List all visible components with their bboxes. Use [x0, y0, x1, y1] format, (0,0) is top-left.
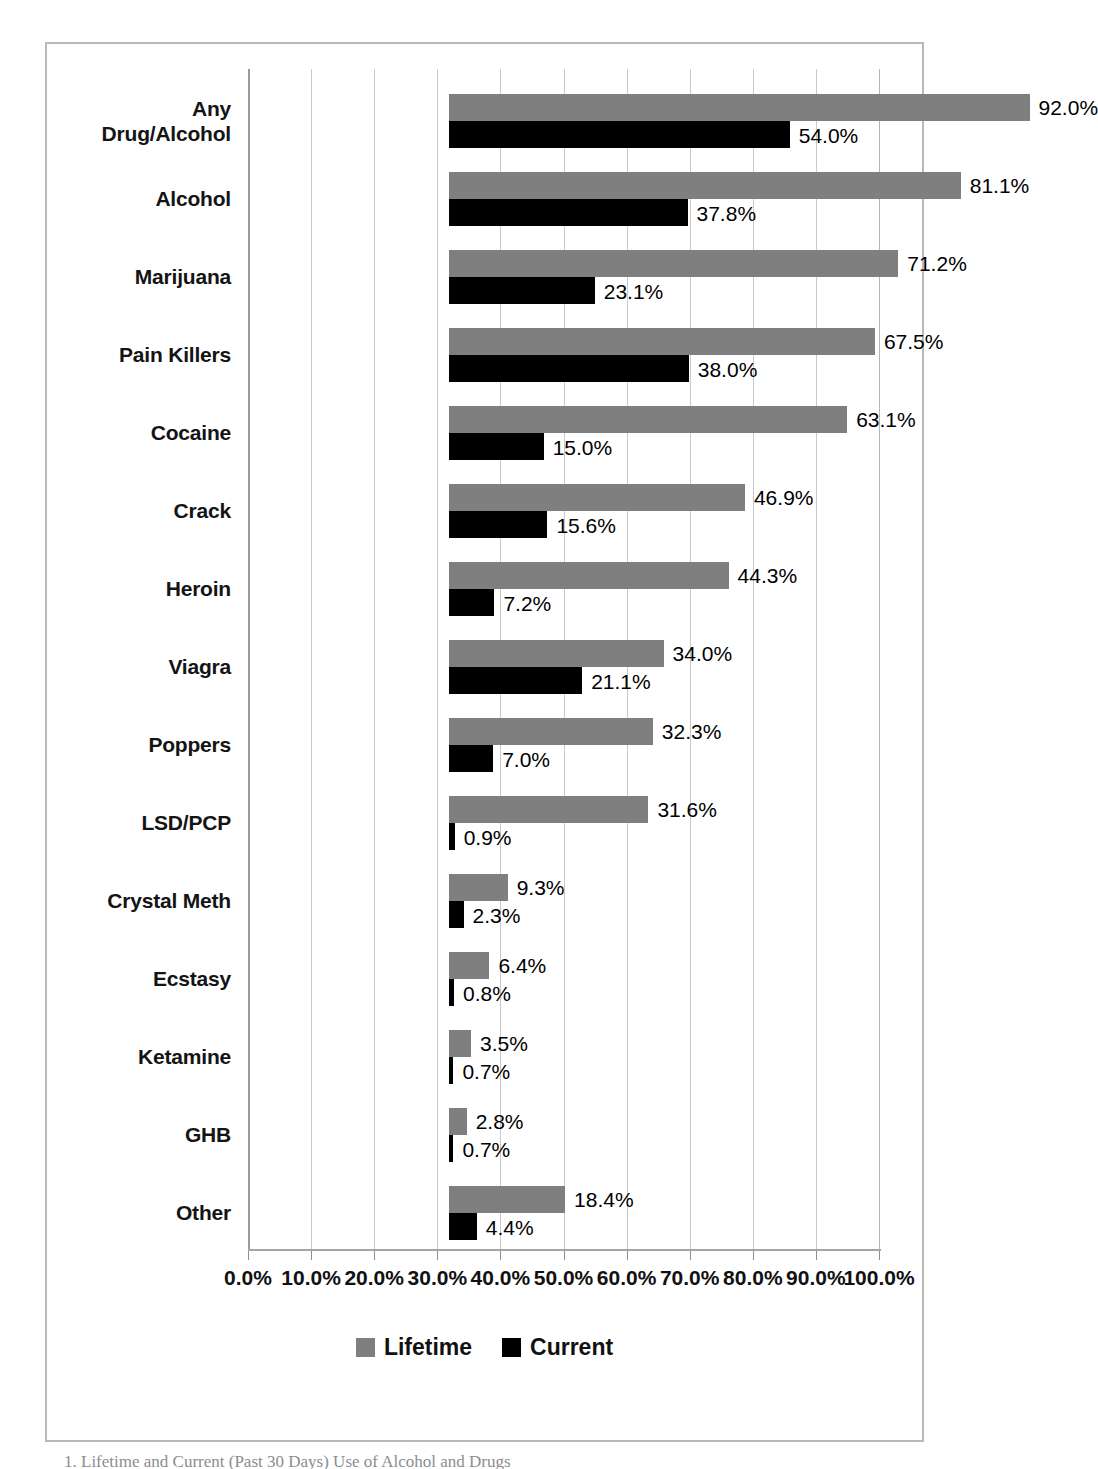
x-tick-mark — [753, 1251, 754, 1260]
legend-item-current: Current — [502, 1334, 613, 1361]
bar-lifetime — [449, 874, 508, 901]
bar-value-current: 7.2% — [503, 590, 551, 617]
bar-current — [449, 979, 454, 1006]
category-label-poppers: Poppers — [0, 733, 231, 757]
chart-frame: AnyDrug/Alcohol92.0%54.0%Alcohol81.1%37.… — [45, 42, 924, 1442]
x-tick-label: 50.0% — [534, 1266, 594, 1290]
bar-current — [449, 355, 689, 382]
bar-row: Pain Killers67.5%38.0% — [248, 328, 879, 406]
x-tick-mark — [374, 1251, 375, 1260]
bar-row: Viagra34.0%21.1% — [248, 640, 879, 718]
bar-value-lifetime: 63.1% — [856, 406, 916, 433]
category-label-crack: Crack — [0, 499, 231, 523]
legend-label: Lifetime — [384, 1334, 472, 1361]
bar-row: Poppers32.3%7.0% — [248, 718, 879, 796]
category-label-lsd-pcp: LSD/PCP — [0, 811, 231, 835]
x-tick-label: 60.0% — [597, 1266, 657, 1290]
x-axis-tick-labels: 0.0%10.0%20.0%30.0%40.0%50.0%60.0%70.0%8… — [248, 1266, 879, 1296]
plot-area: AnyDrug/Alcohol92.0%54.0%Alcohol81.1%37.… — [248, 69, 879, 1249]
bar-value-current: 23.1% — [604, 278, 664, 305]
bar-value-lifetime: 2.8% — [476, 1108, 524, 1135]
bar-value-lifetime: 34.0% — [673, 640, 733, 667]
bar-current — [449, 1135, 453, 1162]
category-label-ecstasy: Ecstasy — [0, 967, 231, 991]
x-tick-mark — [311, 1251, 312, 1260]
bar-row: Alcohol81.1%37.8% — [248, 172, 879, 250]
bar-current — [449, 901, 464, 928]
bar-value-lifetime: 3.5% — [480, 1030, 528, 1057]
bar-value-current: 0.7% — [462, 1058, 510, 1085]
bar-lifetime — [449, 1030, 471, 1057]
category-label-heroin: Heroin — [0, 577, 231, 601]
category-label-other: Other — [0, 1201, 231, 1225]
bar-row: Ecstasy6.4%0.8% — [248, 952, 879, 1030]
bar-row: Marijuana71.2%23.1% — [248, 250, 879, 328]
bar-value-lifetime: 67.5% — [884, 328, 944, 355]
x-axis-line — [248, 1249, 881, 1251]
bar-row: Ketamine3.5%0.7% — [248, 1030, 879, 1108]
bar-current — [449, 121, 790, 148]
bar-value-lifetime: 32.3% — [662, 718, 722, 745]
bar-lifetime — [449, 94, 1030, 121]
bar-value-current: 0.9% — [464, 824, 512, 851]
bar-lifetime — [449, 484, 745, 511]
bar-lifetime — [449, 328, 875, 355]
bar-current — [449, 199, 688, 226]
category-label-viagra: Viagra — [0, 655, 231, 679]
legend-swatch-icon — [502, 1338, 521, 1357]
bar-value-lifetime: 9.3% — [517, 874, 565, 901]
bar-lifetime — [449, 172, 961, 199]
bar-current — [449, 823, 455, 850]
bar-lifetime — [449, 1186, 565, 1213]
figure-caption: 1. Lifetime and Current (Past 30 Days) U… — [64, 1452, 511, 1469]
bar-row: Crack46.9%15.6% — [248, 484, 879, 562]
bar-value-current: 21.1% — [591, 668, 651, 695]
x-tick-mark — [816, 1251, 817, 1260]
bar-current — [449, 277, 595, 304]
x-tick-mark — [248, 1251, 249, 1260]
x-tick-label: 40.0% — [471, 1266, 531, 1290]
bar-value-lifetime: 18.4% — [574, 1186, 634, 1213]
bar-value-current: 15.6% — [556, 512, 616, 539]
bar-value-current: 0.7% — [462, 1136, 510, 1163]
bar-lifetime — [449, 250, 898, 277]
bar-value-lifetime: 46.9% — [754, 484, 814, 511]
bar-value-current: 2.3% — [473, 902, 521, 929]
bar-current — [449, 1057, 453, 1084]
bar-current — [449, 745, 493, 772]
x-tick-label: 70.0% — [660, 1266, 720, 1290]
bar-current — [449, 511, 547, 538]
bar-value-lifetime: 31.6% — [657, 796, 717, 823]
x-tick-label: 10.0% — [281, 1266, 341, 1290]
bar-row: GHB2.8%0.7% — [248, 1108, 879, 1186]
bar-lifetime — [449, 406, 847, 433]
bar-value-lifetime: 6.4% — [498, 952, 546, 979]
gridline-1000 — [879, 69, 880, 1249]
bar-current — [449, 589, 494, 616]
bar-value-current: 54.0% — [799, 122, 859, 149]
bar-value-lifetime: 71.2% — [907, 250, 967, 277]
x-tick-mark — [690, 1251, 691, 1260]
category-label-alcohol: Alcohol — [0, 187, 231, 211]
bar-value-lifetime: 81.1% — [970, 172, 1030, 199]
x-tick-mark — [564, 1251, 565, 1260]
x-tick-label: 0.0% — [224, 1266, 272, 1290]
bar-row: Crystal Meth9.3%2.3% — [248, 874, 879, 952]
x-tick-label: 80.0% — [723, 1266, 783, 1290]
bar-lifetime — [449, 796, 648, 823]
bar-value-lifetime: 92.0% — [1039, 94, 1098, 121]
chart-legend: LifetimeCurrent — [47, 1334, 922, 1361]
category-label-any-drug-alcohol: AnyDrug/Alcohol — [0, 96, 231, 146]
bar-row: LSD/PCP31.6%0.9% — [248, 796, 879, 874]
bar-current — [449, 433, 544, 460]
category-label-cocaine: Cocaine — [0, 421, 231, 445]
bar-current — [449, 1213, 477, 1240]
x-tick-label: 90.0% — [786, 1266, 846, 1290]
bar-lifetime — [449, 562, 729, 589]
bar-value-current: 37.8% — [697, 200, 757, 227]
legend-swatch-icon — [356, 1338, 375, 1357]
bar-row: Cocaine63.1%15.0% — [248, 406, 879, 484]
bar-value-lifetime: 44.3% — [738, 562, 798, 589]
x-tick-mark — [879, 1251, 880, 1260]
bar-row: AnyDrug/Alcohol92.0%54.0% — [248, 94, 879, 172]
